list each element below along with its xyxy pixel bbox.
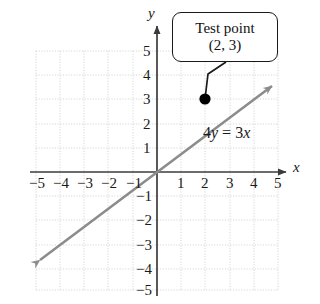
x-tick-label-4: 4: [250, 176, 258, 191]
callout-box: Test point (2, 3): [172, 12, 278, 62]
y-tick-label--3: −3: [136, 238, 152, 253]
equation-var-y: y: [211, 124, 218, 141]
x-tick-label--5: −5: [29, 176, 45, 191]
y-tick-label--4: −4: [136, 262, 152, 277]
y-tick-label-5: 5: [143, 44, 151, 59]
y-tick-label-3: 3: [143, 92, 151, 107]
equation-coef-y: 4: [203, 124, 211, 141]
x-tick-label--4: −4: [53, 176, 69, 191]
x-tick-label-2: 2: [201, 176, 209, 191]
equation-var-x: x: [243, 124, 250, 141]
x-tick-label-3: 3: [226, 176, 234, 191]
callout-line-2: (2, 3): [209, 37, 242, 54]
x-tick-label--2: −2: [101, 176, 117, 191]
axis-lines: [30, 26, 286, 296]
y-tick-label-1: 1: [143, 141, 151, 156]
callout-line-1: Test point: [195, 20, 254, 37]
y-tick-label-2: 2: [143, 117, 151, 132]
equation-coef-x: 3: [235, 124, 243, 141]
y-axis-label: y: [148, 6, 155, 21]
y-tick-label--5: −5: [136, 283, 152, 298]
x-axis-label: x: [293, 160, 300, 175]
y-tick-label--2: −2: [136, 213, 152, 228]
x-tick-label-5: 5: [274, 176, 282, 191]
y-tick-label-4: 4: [143, 68, 151, 83]
x-tick-label--3: −3: [77, 176, 93, 191]
line-4y-equals-3x: [40, 86, 272, 260]
test-point-marker: [199, 93, 210, 104]
equation-label: 4y = 3x: [203, 125, 250, 141]
equation-equals: =: [222, 124, 231, 141]
x-tick-label-1: 1: [177, 176, 185, 191]
callout-leader: [205, 62, 226, 99]
y-tick-label--1: −1: [136, 189, 152, 204]
